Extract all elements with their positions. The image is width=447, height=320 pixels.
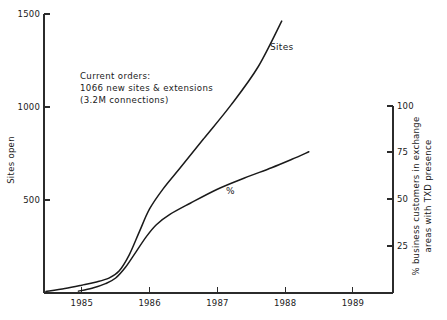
current-orders-note-line-2: 1066 new sites & extensions: [80, 83, 213, 93]
y-axis-left-title: Sites open: [6, 136, 16, 184]
current-orders-note-line-1: Current orders:: [80, 71, 151, 81]
line-chart: 1500 1000 500 100 75 50 25 1985 1986 198…: [0, 0, 447, 320]
y-tick-label-1500: 1500: [18, 9, 40, 19]
axes-group: [44, 14, 393, 293]
series-line-percent: [78, 152, 308, 291]
y2-tick-label-50: 50: [397, 194, 408, 204]
series-label-percent: %: [226, 186, 235, 196]
y2-tick-label-75: 75: [397, 147, 408, 157]
chart-container: 1500 1000 500 100 75 50 25 1985 1986 198…: [0, 0, 447, 320]
current-orders-note-line-3: (3.2M connections): [80, 95, 169, 105]
x-tick-label-1986: 1986: [138, 298, 160, 308]
x-tick-label-1985: 1985: [71, 298, 93, 308]
y2-tick-label-25: 25: [397, 241, 408, 251]
y-axis-right-title-line2: areas with TXD presence: [423, 140, 433, 253]
y-axis-right-ticks: 100 75 50 25: [387, 101, 414, 251]
y-tick-label-1000: 1000: [18, 102, 40, 112]
x-tick-label-1987: 1987: [206, 298, 228, 308]
x-axis-ticks: 1985 1986 1987 1988 1989: [71, 287, 365, 308]
y2-tick-label-100: 100: [397, 101, 414, 111]
y-tick-label-500: 500: [23, 195, 40, 205]
y-axis-right-title-line1: % business customers in exchange: [411, 117, 421, 276]
current-orders-note: Current orders: 1066 new sites & extensi…: [80, 71, 213, 105]
series-line-sites: [46, 21, 282, 291]
x-tick-label-1989: 1989: [342, 298, 364, 308]
x-tick-label-1988: 1988: [274, 298, 296, 308]
y-axis-right-title: % business customers in exchange areas w…: [411, 117, 433, 276]
series-label-sites: Sites: [270, 42, 293, 52]
y-axis-left-ticks: 1500 1000 500: [18, 9, 50, 205]
series-group: [46, 21, 309, 291]
